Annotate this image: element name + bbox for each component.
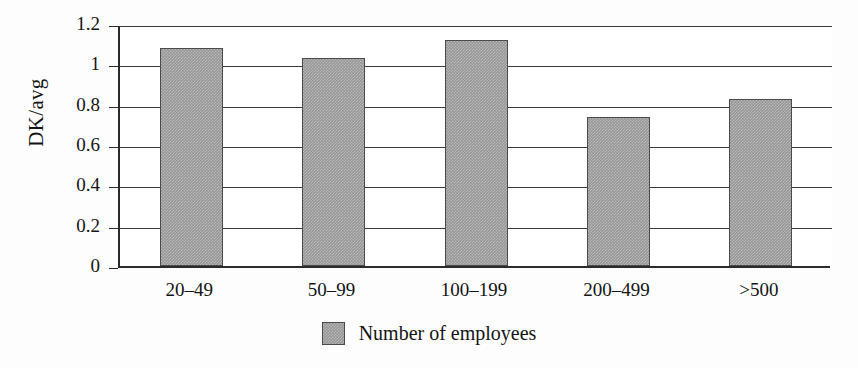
- y-axis-tick: [109, 187, 118, 188]
- y-axis-tick: [109, 26, 118, 27]
- y-axis-tick-label: 0.4: [34, 174, 100, 196]
- y-axis-tick: [109, 147, 118, 148]
- legend-label: Number of employees: [359, 322, 537, 345]
- y-axis-tick-label: 1: [34, 53, 100, 75]
- plot-area: [118, 26, 830, 268]
- y-axis-tick-label: 0.6: [34, 134, 100, 156]
- bar: [302, 58, 365, 266]
- x-axis-tick-label: 50–99: [262, 279, 402, 301]
- bar: [587, 117, 650, 266]
- y-axis-tick: [109, 228, 118, 229]
- y-axis-tick: [109, 66, 118, 67]
- bar: [729, 99, 792, 266]
- legend-swatch-icon: [322, 322, 345, 345]
- y-axis-tick: [109, 268, 118, 269]
- x-axis-tick-label: 100–199: [404, 279, 544, 301]
- chart-legend: Number of employees: [0, 322, 858, 345]
- y-axis-tick-label: 0.8: [34, 94, 100, 116]
- y-axis-tick-label: 0.2: [34, 215, 100, 237]
- x-axis-tick-label: 200–499: [546, 279, 686, 301]
- y-axis-tick: [109, 107, 118, 108]
- bar: [160, 48, 223, 266]
- x-axis-tick-label: >500: [689, 279, 829, 301]
- gridline: [120, 26, 832, 27]
- bar: [445, 40, 508, 266]
- y-axis-tick-label: 1.2: [34, 13, 100, 35]
- bar-chart: DK/avg 1.210.80.60.40.20 20–4950–99100–1…: [0, 0, 858, 368]
- x-axis-tick-label: 20–49: [119, 279, 259, 301]
- y-axis-tick-label: 0: [34, 255, 100, 277]
